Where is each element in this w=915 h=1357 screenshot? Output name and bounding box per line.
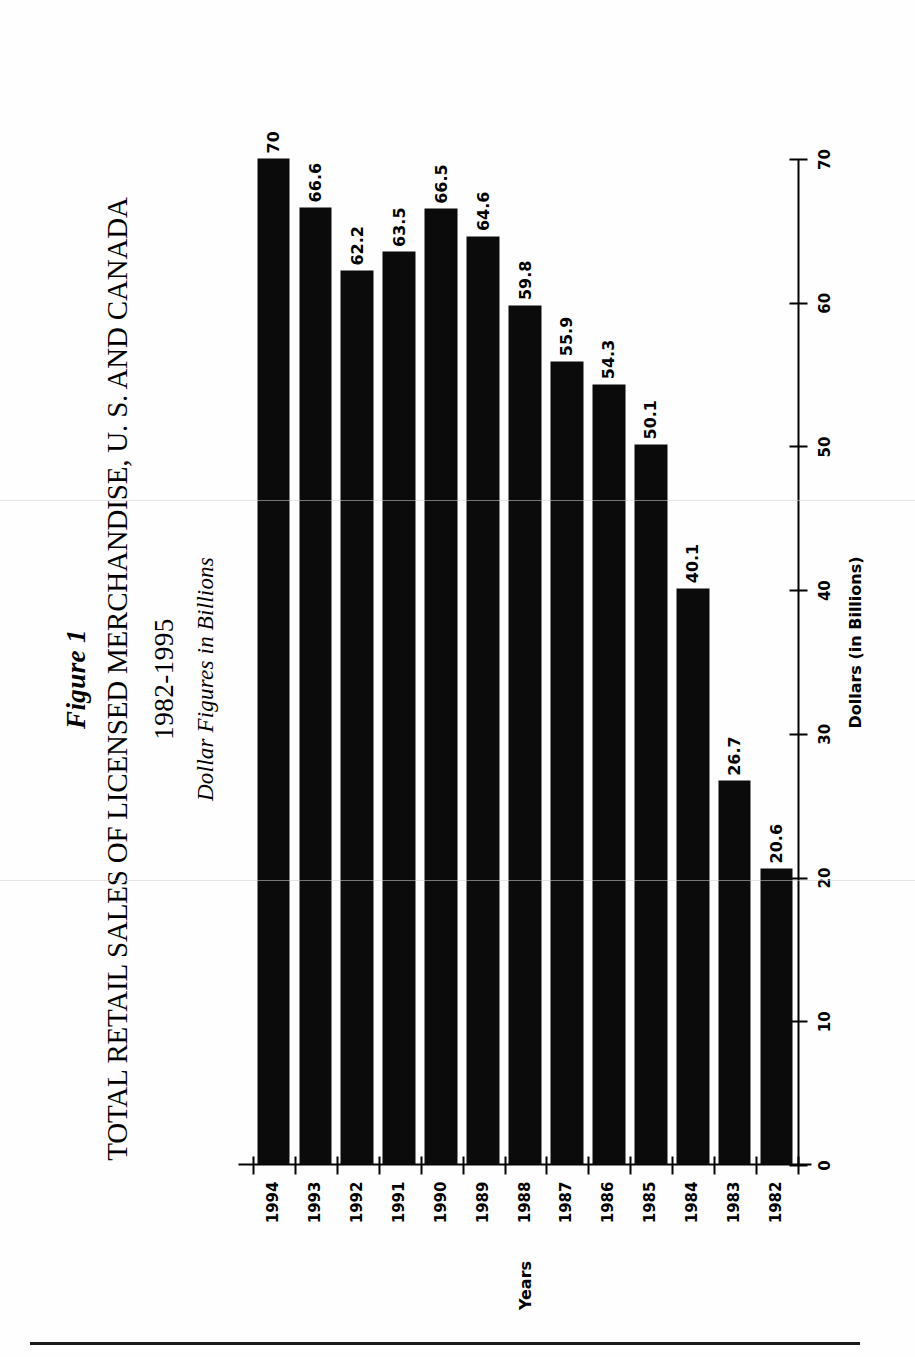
category-label: 1991: [389, 1181, 407, 1237]
figure-label: Figure 1: [60, 0, 91, 1357]
category-axis-tick: [336, 1156, 338, 1174]
figure-subtitle: 1982-1995: [148, 0, 179, 1357]
bar: [340, 270, 373, 1164]
bar-chart-plot: Years Dollars (in Billions) 010203040506…: [252, 159, 797, 1165]
bar: [299, 207, 332, 1164]
bar: [466, 236, 499, 1164]
category-label: 1993: [305, 1181, 323, 1237]
bar-value-label: 55.9: [556, 298, 575, 356]
category-axis-tick: [420, 1156, 422, 1174]
bar: [634, 444, 667, 1164]
category-axis-tick: [755, 1156, 757, 1174]
category-axis-tick: [504, 1156, 506, 1174]
category-label: 1992: [347, 1181, 365, 1237]
value-axis-tick-label: 60: [815, 273, 833, 333]
bar-value-label: 50.1: [640, 381, 659, 439]
bar-value-label: 63.5: [389, 188, 408, 246]
category-label: 1984: [682, 1181, 700, 1237]
bar-value-label: 20.6: [766, 805, 785, 863]
category-axis-tick: [587, 1156, 589, 1174]
value-axis-tick: [789, 733, 807, 735]
value-axis-tick-label: 10: [815, 991, 833, 1051]
scan-artifact: [0, 880, 915, 881]
category-axis-tick: [294, 1156, 296, 1174]
bar-value-label: 59.8: [515, 242, 534, 300]
value-axis-tick: [789, 589, 807, 591]
category-label: 1986: [598, 1181, 616, 1237]
value-axis-tick: [789, 445, 807, 447]
category-axis-tick: [545, 1156, 547, 1174]
x-axis-line: [797, 159, 799, 1165]
y-axis-title: Dollars (in Billions): [845, 542, 864, 742]
bar: [760, 868, 793, 1164]
category-label: 1987: [556, 1181, 574, 1237]
bar: [257, 158, 290, 1164]
bar-value-label: 66.6: [305, 144, 324, 202]
bar-value-label: 26.7: [724, 717, 743, 775]
scan-artifact: [0, 500, 915, 501]
value-axis-tick: [789, 302, 807, 304]
figure-units-note: Dollar Figures in Billions: [192, 0, 218, 1357]
bar-value-label: 66.5: [431, 145, 450, 203]
value-axis-tick-label: 20: [815, 848, 833, 908]
bar: [382, 251, 415, 1164]
category-axis-tick: [797, 1156, 799, 1174]
category-label: 1983: [724, 1181, 742, 1237]
figure-title: TOTAL RETAIL SALES OF LICENSED MERCHANDI…: [100, 0, 133, 1357]
x-axis-title: Years: [515, 1255, 534, 1315]
rotated-figure-stage: Figure 1 TOTAL RETAIL SALES OF LICENSED …: [0, 0, 915, 1357]
bar: [676, 588, 709, 1164]
bar-value-label: 64.6: [473, 173, 492, 231]
category-label: 1982: [766, 1181, 784, 1237]
bar: [550, 361, 583, 1164]
bar-value-label: 54.3: [598, 321, 617, 379]
category-axis-tick: [671, 1156, 673, 1174]
bar-value-label: 40.1: [682, 525, 701, 583]
figure-page: Figure 1 TOTAL RETAIL SALES OF LICENSED …: [0, 0, 915, 1357]
category-label: 1988: [515, 1181, 533, 1237]
value-axis-tick-label: 70: [815, 129, 833, 189]
category-axis-tick: [713, 1156, 715, 1174]
value-axis-tick-label: 50: [815, 416, 833, 476]
category-label: 1989: [473, 1181, 491, 1237]
category-axis-tick: [462, 1156, 464, 1174]
value-axis-tick-label: 30: [815, 704, 833, 764]
category-label: 1994: [263, 1181, 281, 1237]
bar: [718, 780, 751, 1164]
category-axis-tick: [252, 1156, 254, 1174]
bar: [424, 208, 457, 1164]
value-axis-tick-label: 40: [815, 560, 833, 620]
bar-value-label: 70: [263, 95, 282, 153]
category-label: 1985: [640, 1181, 658, 1237]
category-axis-tick: [629, 1156, 631, 1174]
category-axis-tick: [378, 1156, 380, 1174]
bar-value-label: 62.2: [347, 207, 366, 265]
category-label: 1990: [431, 1181, 449, 1237]
value-axis-tick: [789, 158, 807, 160]
value-axis-tick-label: 0: [815, 1135, 833, 1195]
bar: [508, 305, 541, 1164]
